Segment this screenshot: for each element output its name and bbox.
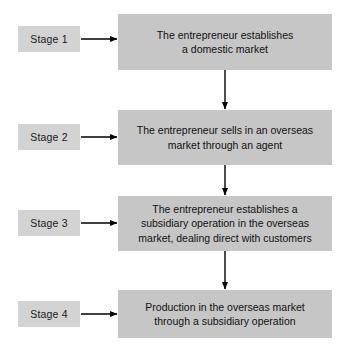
stage-label-box-2[interactable]: Stage 2 [18,124,80,150]
stage-label-text: Stage 1 [30,33,68,45]
stage-label-box-1[interactable]: Stage 1 [18,26,80,52]
stage-label-box-4[interactable]: Stage 4 [18,301,80,327]
content-box-stage-1[interactable]: The entrepreneur establishes a domestic … [118,14,332,70]
content-box-stage-3[interactable]: The entrepreneur establishes a subsidiar… [118,196,332,251]
content-box-text: The entrepreneur sells in an overseas ma… [137,123,313,152]
content-box-stage-4[interactable]: Production in the overseas market throug… [118,290,332,338]
stage-label-text: Stage 3 [30,217,68,229]
flowchart-diagram: Stage 1 The entrepreneur establishes a d… [0,0,355,348]
content-box-stage-2[interactable]: The entrepreneur sells in an overseas ma… [118,110,332,165]
content-box-text: The entrepreneur establishes a subsidiar… [138,202,311,246]
stage-label-text: Stage 4 [30,308,68,320]
stage-label-box-3[interactable]: Stage 3 [18,210,80,236]
stage-label-text: Stage 2 [30,131,68,143]
content-box-text: Production in the overseas market throug… [145,300,304,329]
content-box-text: The entrepreneur establishes a domestic … [157,28,294,57]
